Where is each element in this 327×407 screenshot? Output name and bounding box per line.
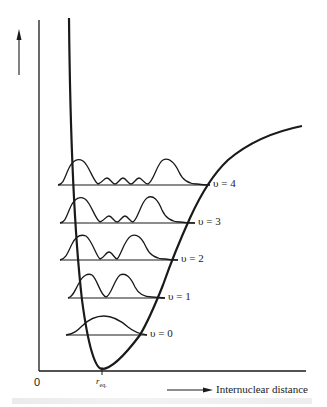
level-label-v4: υ = 4 bbox=[213, 177, 236, 189]
level-label-v0: υ = 0 bbox=[150, 327, 173, 339]
psi-squared-v1 bbox=[68, 274, 165, 298]
psi-squared-v4 bbox=[58, 159, 210, 185]
level-label-v1: υ = 1 bbox=[168, 290, 191, 302]
potential-energy-diagram bbox=[0, 0, 327, 407]
psi-squared-v3 bbox=[60, 197, 195, 223]
y-axis-label: Energy bbox=[6, 50, 20, 170]
req-subscript: eq. bbox=[100, 382, 107, 388]
origin-label: 0 bbox=[34, 376, 40, 388]
level-label-v2: υ = 2 bbox=[181, 252, 204, 264]
equilibrium-distance-label: req. bbox=[96, 376, 107, 388]
level-label-v3: υ = 3 bbox=[198, 215, 221, 227]
distance-arrow-head-icon bbox=[203, 388, 213, 393]
x-axis-label: Internuclear distance bbox=[216, 383, 308, 395]
energy-arrow-head-icon bbox=[17, 29, 22, 40]
figure-caption-faded bbox=[12, 398, 312, 404]
psi-squared-v0 bbox=[66, 316, 147, 335]
